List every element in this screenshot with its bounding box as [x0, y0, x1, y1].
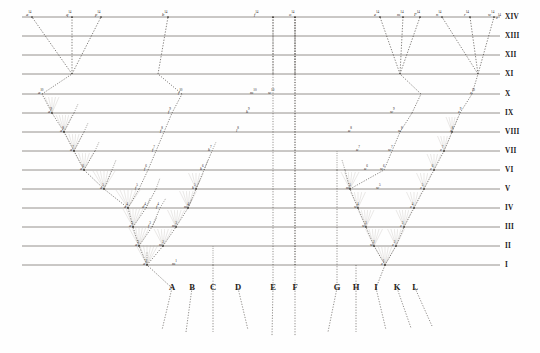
extinct-branch-10	[74, 104, 78, 113]
node-dot	[423, 188, 425, 190]
node-label-p14: p14	[95, 11, 100, 17]
node-label-w10: w10	[268, 89, 274, 95]
extinct-branch-4	[160, 198, 166, 208]
node-label-a9: a9	[48, 108, 52, 114]
node-label-u7: u7	[356, 146, 360, 152]
node-label-w2: w2	[370, 241, 375, 247]
node-label-z10: z10	[470, 89, 475, 95]
generation-label-VII: VII	[505, 148, 516, 155]
lineage-branch-A-30	[42, 74, 72, 94]
lineage-branch-A-11	[128, 189, 139, 208]
base-stem-4	[272, 288, 273, 336]
node-label-a4: a4	[124, 203, 128, 209]
lineage-branch-I-4	[396, 227, 404, 246]
node-label-e14: e14	[374, 11, 379, 17]
upper-band-lineage-7	[400, 17, 403, 74]
generation-label-III: III	[505, 224, 514, 231]
lineage-branch-A-5	[163, 227, 176, 246]
generation-label-XIII: XIII	[505, 33, 519, 40]
node-label-z1: z1	[381, 260, 384, 266]
lineage-branch-A-4	[139, 227, 152, 246]
generation-label-XIV: XIV	[505, 14, 519, 21]
node-label-f5: f5	[135, 184, 138, 190]
lineage-branch-I-14	[392, 132, 400, 151]
node-label-d4: d4	[142, 203, 146, 209]
node-label-w3: w3	[362, 222, 367, 228]
node-label-n14: n14	[436, 11, 441, 17]
base-stem-9	[397, 288, 411, 328]
extinct-branch-6	[152, 217, 157, 227]
species-label-A: A	[169, 283, 175, 292]
node-label-a10: a10	[38, 89, 43, 95]
node-label-z9: z9	[458, 108, 461, 114]
node-label-f10: f10	[178, 89, 182, 95]
node-label-f4: f4	[156, 203, 159, 209]
node-label-k5: k5	[192, 184, 196, 190]
node-label-m14: m14	[397, 11, 403, 17]
node-label-z4: z4	[410, 203, 413, 209]
base-stem-0	[162, 288, 172, 330]
lineage-branch-I-19	[460, 94, 472, 113]
base-stem-10	[415, 288, 432, 326]
divergence-ray-A	[147, 245, 154, 265]
divergence-ray-A	[104, 171, 115, 189]
node-label-w9: w9	[390, 108, 395, 114]
divergence-ray-I	[444, 136, 447, 151]
lineage-branch-A-29	[172, 94, 182, 113]
generation-label-II: II	[505, 243, 511, 250]
lineage-branch-A-12	[146, 189, 156, 208]
node-label-u6: u6	[364, 165, 368, 171]
node-label-f8: f8	[160, 127, 163, 133]
node-label-a3: a3	[129, 222, 133, 228]
species-label-K: K	[394, 283, 401, 292]
generation-label-X: X	[505, 91, 510, 98]
node-label-f14: f14	[254, 11, 258, 17]
node-dot	[443, 150, 445, 152]
node-label-w14: w14	[488, 11, 494, 17]
species-label-H: H	[353, 283, 360, 292]
base-stem-1	[186, 288, 192, 332]
upper-band-lineage-6	[380, 17, 400, 74]
node-label-f6: f6	[144, 165, 147, 171]
upper-band-lineage-10	[470, 17, 478, 74]
lineage-branch-I-8	[414, 189, 424, 208]
divergence-ray-A	[52, 97, 59, 113]
extinct-branch-5	[146, 198, 150, 208]
extinct-branch-8	[95, 142, 99, 151]
generation-label-XII: XII	[505, 52, 516, 59]
node-label-q14: q14	[66, 11, 71, 17]
node-label-m10: m10	[250, 89, 256, 95]
lineage-tip-dot	[272, 16, 274, 18]
node-label-b14: b14	[162, 11, 167, 17]
upper-band-lineage-11	[478, 17, 494, 74]
lineage-branch-A-24	[156, 132, 164, 151]
extinct-branch-12	[212, 142, 216, 151]
species-label-E: E	[270, 283, 276, 292]
generation-label-V: V	[505, 186, 510, 193]
species-label-B: B	[189, 283, 195, 292]
lineage-branch-A-2	[147, 246, 163, 265]
lineage-branch-A-17	[196, 170, 204, 189]
upper-band-lineage-9	[442, 17, 478, 74]
base-stem-6	[328, 288, 337, 332]
generation-label-XI: XI	[505, 71, 513, 78]
upper-band-lineage-0	[32, 17, 72, 74]
lineage-branch-A-21	[204, 151, 212, 170]
divergence-ray-A	[52, 97, 56, 113]
generation-label-I: I	[505, 262, 508, 269]
lineage-branch-A-13	[188, 189, 196, 208]
node-label-a2: a2	[135, 241, 139, 247]
divergence-ray-I	[424, 173, 428, 189]
node-label-w6: w6	[380, 165, 385, 171]
node-label-m5: m5	[346, 184, 351, 190]
lineage-tip-dot	[469, 16, 471, 18]
divergence-ray-A	[133, 209, 140, 227]
lineage-branch-I-11	[424, 170, 434, 189]
node-dot	[433, 169, 435, 171]
base-stem-8	[376, 288, 386, 330]
extinct-branch-3	[156, 178, 160, 189]
node-label-w7: w7	[388, 146, 393, 152]
lineage-branch-A-27	[164, 113, 172, 132]
node-label-z14: z14	[496, 14, 501, 20]
node-label-w5: w5	[376, 184, 381, 190]
